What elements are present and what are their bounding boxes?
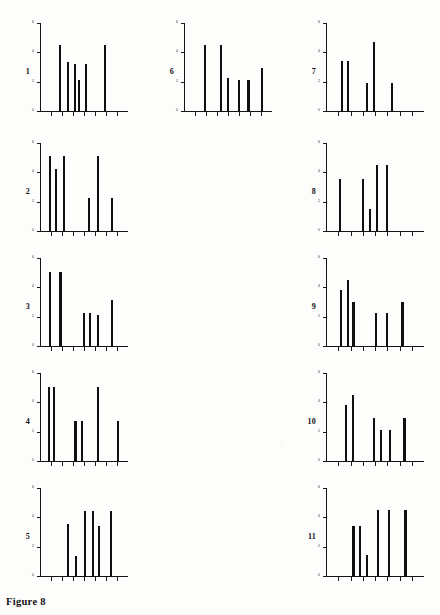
x-tick bbox=[261, 112, 262, 116]
bar bbox=[63, 156, 65, 232]
x-tick bbox=[375, 112, 376, 116]
x-tick bbox=[412, 462, 413, 466]
x-tick bbox=[84, 462, 85, 466]
y-tick bbox=[323, 111, 327, 112]
bar bbox=[89, 313, 91, 347]
x-tick bbox=[206, 112, 207, 116]
y-tick bbox=[323, 172, 327, 173]
bar bbox=[352, 526, 354, 577]
chart-panel-8: 80246 bbox=[302, 142, 426, 242]
y-tick bbox=[37, 432, 41, 433]
y-tick bbox=[37, 576, 41, 577]
y-tick bbox=[181, 52, 185, 53]
x-tick bbox=[84, 577, 85, 581]
bar bbox=[97, 387, 99, 462]
y-axis-line bbox=[326, 374, 327, 462]
bar bbox=[238, 80, 240, 112]
y-axis-line bbox=[326, 144, 327, 232]
x-tick bbox=[400, 577, 401, 581]
bar bbox=[78, 80, 80, 112]
x-tick bbox=[106, 232, 107, 236]
y-tick bbox=[323, 346, 327, 347]
x-tick bbox=[338, 112, 339, 116]
x-tick bbox=[106, 347, 107, 351]
y-tick bbox=[181, 82, 185, 83]
plot-area-7: 0246 bbox=[318, 22, 426, 122]
x-tick bbox=[117, 347, 118, 351]
x-tick bbox=[95, 577, 96, 581]
bar bbox=[83, 313, 85, 347]
x-tick bbox=[412, 577, 413, 581]
bar bbox=[227, 78, 229, 112]
bar bbox=[204, 45, 206, 112]
panel-label-6: 6 bbox=[160, 68, 174, 76]
bar bbox=[373, 42, 375, 112]
panel-label-3: 3 bbox=[16, 303, 30, 311]
y-tick bbox=[37, 82, 41, 83]
x-tick bbox=[62, 462, 63, 466]
y-tick bbox=[181, 111, 185, 112]
y-tick bbox=[37, 317, 41, 318]
x-tick bbox=[363, 232, 364, 236]
x-tick bbox=[387, 112, 388, 116]
chart-panel-4: 40246 bbox=[16, 372, 130, 472]
y-tick bbox=[323, 143, 327, 144]
bar bbox=[376, 165, 378, 232]
x-tick bbox=[73, 112, 74, 116]
y-tick bbox=[37, 258, 41, 259]
x-tick bbox=[351, 577, 352, 581]
x-tick bbox=[239, 112, 240, 116]
x-tick bbox=[363, 112, 364, 116]
bar bbox=[369, 209, 371, 232]
bar bbox=[98, 526, 100, 577]
bar bbox=[59, 45, 61, 112]
y-tick bbox=[323, 432, 327, 433]
x-tick bbox=[106, 112, 107, 116]
bar bbox=[55, 169, 57, 232]
chart-panel-6: 60246 bbox=[160, 22, 274, 122]
x-tick bbox=[228, 112, 229, 116]
chart-panel-5: 50246 bbox=[16, 487, 130, 587]
chart-panel-2: 20246 bbox=[16, 142, 130, 242]
bar bbox=[359, 526, 361, 577]
y-axis-line bbox=[40, 259, 41, 347]
x-tick bbox=[106, 577, 107, 581]
panel-label-9: 9 bbox=[302, 303, 316, 311]
y-tick bbox=[37, 52, 41, 53]
y-tick bbox=[323, 202, 327, 203]
chart-panel-3: 30246 bbox=[16, 257, 130, 357]
bar bbox=[389, 430, 391, 462]
plot-area-4: 0246 bbox=[32, 372, 130, 472]
bar bbox=[104, 45, 106, 112]
x-tick bbox=[95, 462, 96, 466]
x-tick bbox=[73, 577, 74, 581]
panel-label-11: 11 bbox=[302, 533, 316, 541]
y-axis-line bbox=[40, 489, 41, 577]
y-tick bbox=[37, 461, 41, 462]
y-tick bbox=[323, 23, 327, 24]
y-axis-line bbox=[326, 259, 327, 347]
x-tick bbox=[95, 347, 96, 351]
y-tick bbox=[37, 346, 41, 347]
x-tick bbox=[338, 577, 339, 581]
x-tick bbox=[375, 347, 376, 351]
x-tick bbox=[412, 347, 413, 351]
y-tick bbox=[323, 317, 327, 318]
x-tick bbox=[400, 232, 401, 236]
bar bbox=[347, 280, 349, 347]
bar bbox=[110, 511, 112, 577]
bar bbox=[75, 556, 77, 577]
figure-sheet: 1024620246302464024650246602467024680246… bbox=[0, 0, 440, 615]
y-tick bbox=[323, 82, 327, 83]
y-tick bbox=[323, 488, 327, 489]
bar bbox=[373, 418, 375, 462]
panel-label-1: 1 bbox=[16, 68, 30, 76]
x-tick bbox=[338, 347, 339, 351]
x-tick bbox=[84, 347, 85, 351]
x-tick bbox=[375, 232, 376, 236]
x-tick bbox=[363, 462, 364, 466]
bar bbox=[391, 83, 393, 112]
x-tick bbox=[338, 462, 339, 466]
chart-panel-9: 90246 bbox=[302, 257, 426, 357]
x-tick bbox=[387, 462, 388, 466]
